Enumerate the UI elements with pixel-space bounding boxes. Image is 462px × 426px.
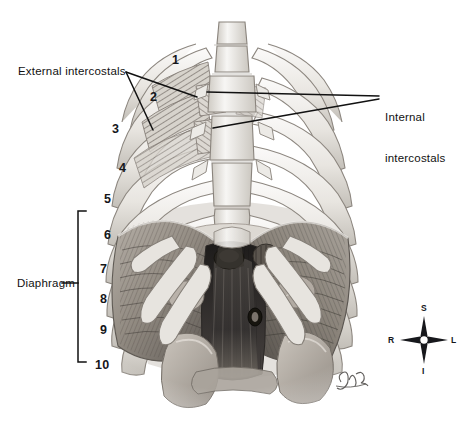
label-internal-intercostals-line2: intercostals <box>385 152 446 166</box>
anatomy-figure: External intercostals Internal intercost… <box>0 0 462 426</box>
rib-number-1: 1 <box>172 53 179 67</box>
compass-label-inferior: I <box>422 366 425 376</box>
compass-label-right: R <box>388 335 394 345</box>
label-diaphragm: Diaphragm <box>17 277 75 291</box>
rib-number-10: 10 <box>95 358 109 372</box>
rib-number-8: 8 <box>100 292 107 306</box>
compass-label-left: L <box>451 335 456 345</box>
rib-number-5: 5 <box>104 192 111 206</box>
vertebral-column <box>214 227 250 248</box>
rib-number-2: 2 <box>150 90 157 104</box>
compass-label-superior: S <box>421 303 427 313</box>
rib-number-7: 7 <box>100 262 107 276</box>
label-external-intercostals: External intercostals <box>18 65 126 79</box>
rib-number-3: 3 <box>112 122 119 136</box>
rib-number-6: 6 <box>104 228 111 242</box>
rib-number-9: 9 <box>100 323 107 337</box>
anatomy-illustration <box>0 0 462 426</box>
label-internal-intercostals: Internal intercostals <box>385 84 446 192</box>
rib-number-4: 4 <box>119 161 126 175</box>
label-internal-intercostals-line1: Internal <box>385 111 446 125</box>
